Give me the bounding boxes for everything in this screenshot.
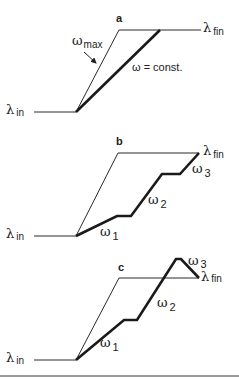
panel-a-omega-max-label: ωmax <box>72 33 103 50</box>
panel-b: b λin λfin ω1 ω2 ω3 <box>6 135 224 242</box>
panel-b-lambda-in-label: λin <box>6 226 24 242</box>
diagram-canvas: a λin λfin ωmax ω = const. b λin λfin <box>0 0 239 380</box>
panel-c-omega2-label: ω2 <box>157 295 176 313</box>
panel-c-letter: c <box>118 261 124 273</box>
panel-c: c λin λfin ω1 ω2 ω3 <box>6 253 222 366</box>
panel-a-omega-const-label: ω = const. <box>132 61 182 73</box>
panel-b-omega-max-path <box>76 153 199 236</box>
panel-b-omega3-label: ω3 <box>192 161 211 179</box>
panel-b-lambda-fin-label: λfin <box>203 143 224 160</box>
panel-c-lambda-fin-label: λfin <box>201 269 222 284</box>
arrow-icon <box>84 52 96 63</box>
panel-a-lambda-in-label: λin <box>6 102 24 118</box>
panel-c-omega1-label: ω1 <box>100 335 119 353</box>
panel-c-overshoot-path <box>76 259 199 360</box>
panel-c-lambda-in-label: λin <box>6 350 24 366</box>
panel-b-omega2-label: ω2 <box>148 192 167 210</box>
panel-a-lambda-fin-label: λfin <box>203 20 224 37</box>
panel-b-omega1-label: ω1 <box>100 224 119 242</box>
panel-b-stepped-path <box>76 153 199 236</box>
panel-a-letter: a <box>116 12 123 24</box>
panel-c-omega3-label: ω3 <box>188 253 207 270</box>
panel-a: a λin λfin ωmax ω = const. <box>6 12 224 118</box>
panel-b-letter: b <box>116 135 123 147</box>
